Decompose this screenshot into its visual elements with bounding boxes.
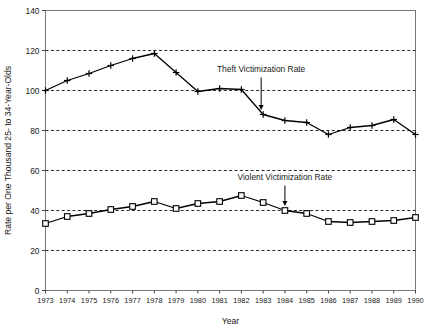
marker-square-1973: [43, 221, 49, 227]
xtick-label-1975: 1975: [81, 296, 97, 305]
xtick-label-1976: 1976: [103, 296, 119, 305]
line-chart: 0204060801001201401973197419751976197719…: [0, 0, 429, 330]
ytick-label-0: 0: [35, 286, 40, 296]
xtick-label-1977: 1977: [124, 296, 140, 305]
ytick-label-120: 120: [26, 46, 40, 56]
ytick-label-140: 140: [26, 6, 40, 16]
marker-square-1990: [413, 215, 419, 221]
ytick-label-100: 100: [26, 86, 40, 96]
marker-square-1987: [347, 220, 353, 226]
annotation-label-1: Theft Victimization Rate: [217, 64, 306, 74]
xtick-label-1980: 1980: [190, 296, 206, 305]
x-axis-title: Year: [222, 316, 240, 326]
marker-square-1980: [195, 201, 201, 207]
marker-square-1982: [239, 193, 245, 199]
annotation-label-2: Violent Victimization Rate: [238, 172, 333, 182]
marker-square-1986: [326, 219, 332, 225]
xtick-label-1990: 1990: [407, 296, 423, 305]
marker-square-1981: [217, 199, 223, 205]
xtick-label-1985: 1985: [298, 296, 314, 305]
marker-square-1989: [391, 218, 397, 224]
xtick-label-1983: 1983: [255, 296, 271, 305]
ytick-label-60: 60: [30, 166, 40, 176]
marker-square-1988: [369, 219, 375, 225]
marker-square-1979: [173, 206, 179, 212]
chart-container: 0204060801001201401973197419751976197719…: [0, 0, 429, 330]
plot-frame: [46, 11, 416, 291]
ytick-label-20: 20: [30, 246, 40, 256]
xtick-label-1986: 1986: [320, 296, 336, 305]
marker-square-1975: [86, 211, 92, 217]
xtick-label-1989: 1989: [386, 296, 402, 305]
xtick-label-1988: 1988: [364, 296, 380, 305]
y-axis-title: Rate per One Thousand 25- to 34-Year-Old…: [3, 66, 13, 235]
marker-square-1976: [108, 207, 114, 213]
xtick-label-1973: 1973: [37, 296, 53, 305]
xtick-label-1974: 1974: [59, 296, 75, 305]
xtick-label-1982: 1982: [233, 296, 249, 305]
xtick-label-1984: 1984: [277, 296, 293, 305]
ytick-label-40: 40: [30, 206, 40, 216]
marker-square-1984: [282, 208, 288, 214]
marker-square-1983: [260, 200, 266, 206]
xtick-label-1978: 1978: [146, 296, 162, 305]
marker-square-1978: [152, 199, 158, 205]
xtick-label-1987: 1987: [342, 296, 358, 305]
xtick-label-1981: 1981: [211, 296, 227, 305]
xtick-label-1979: 1979: [168, 296, 184, 305]
marker-square-1977: [130, 204, 136, 210]
marker-square-1974: [64, 214, 70, 220]
marker-square-1985: [304, 211, 310, 217]
ytick-label-80: 80: [30, 126, 40, 136]
